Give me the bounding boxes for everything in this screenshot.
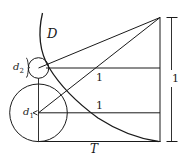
- small-circle-label-d2: d2: [13, 62, 24, 75]
- geometry-figure: D T d2 d1 1 1 1: [0, 0, 182, 161]
- height-dimension-label: 1: [172, 73, 179, 84]
- small-circle-label-subscript: 2: [19, 67, 23, 75]
- lower-unit-segment-label: 1: [96, 100, 103, 111]
- large-circle-label-d1: d1: [23, 107, 34, 120]
- figure-canvas: [0, 0, 182, 161]
- upper-unit-segment-label: 1: [96, 72, 103, 83]
- baseline-label-t: T: [90, 143, 98, 155]
- curve-label-d: D: [47, 27, 57, 40]
- large-circle-label-subscript: 1: [29, 112, 33, 120]
